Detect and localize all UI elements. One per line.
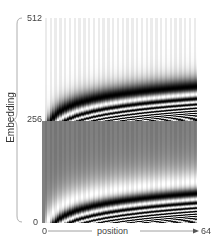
x-axis-label: position	[95, 226, 130, 236]
x-tick-64: 64	[201, 227, 211, 236]
y-tick-0: 0	[33, 218, 38, 227]
x-tick-0: 0	[42, 227, 47, 236]
x-axis-arrowhead-icon	[193, 229, 199, 234]
y-tick-256: 256	[27, 115, 42, 124]
y-axis-label: Embedding	[5, 90, 16, 146]
y-tick-512: 512	[27, 14, 42, 23]
